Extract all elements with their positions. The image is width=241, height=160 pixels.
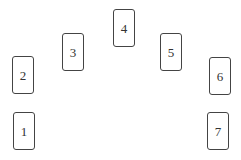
card-number: 7 (215, 125, 222, 138)
card-position-1: 1 (13, 112, 35, 150)
card-number: 4 (121, 22, 128, 35)
card-position-3: 3 (62, 33, 84, 71)
card-position-4: 4 (113, 9, 135, 47)
card-number: 3 (70, 46, 77, 59)
card-position-5: 5 (160, 33, 182, 71)
card-position-7: 7 (207, 112, 229, 150)
card-number: 2 (20, 69, 27, 82)
card-number: 6 (217, 70, 224, 83)
card-position-6: 6 (209, 57, 231, 95)
card-number: 1 (21, 125, 28, 138)
card-number: 5 (168, 46, 175, 59)
card-position-2: 2 (12, 56, 34, 94)
